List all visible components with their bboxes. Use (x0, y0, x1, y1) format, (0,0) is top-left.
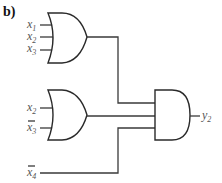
or-gate-1 (48, 13, 87, 63)
wire-or1-to-and (87, 37, 155, 103)
input-x2-b: x2 (26, 100, 53, 116)
input-x3: x3 (26, 41, 54, 57)
figure-label: b) (3, 4, 16, 20)
svg-text:x2: x2 (26, 100, 36, 116)
input-not-x3: x3 (26, 120, 53, 136)
output-label: y2 (201, 108, 211, 124)
and-gate (155, 90, 190, 140)
or-gate-2 (48, 90, 87, 140)
input-not-x4: x4 (26, 128, 155, 181)
svg-text:x4: x4 (26, 165, 36, 181)
svg-text:x3: x3 (26, 120, 36, 136)
logic-diagram: b) x1 x2 x3 x2 x3 x4 y2 (0, 0, 222, 183)
